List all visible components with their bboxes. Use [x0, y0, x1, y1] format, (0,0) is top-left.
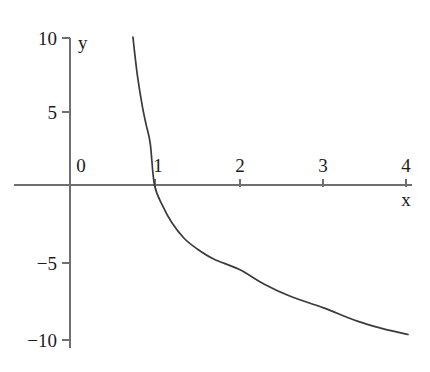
- x-tick-label-4: 4: [401, 155, 411, 176]
- y-tick-label-minus-10: −10: [27, 330, 57, 351]
- x-tick-label-2: 2: [235, 155, 245, 176]
- x-tick-label-0: 0: [76, 155, 86, 176]
- y-tick-label-10: 10: [38, 28, 57, 49]
- logarithmic-curve-chart: 10 5 −5 −10 0 1 2 3 4 y x: [0, 0, 430, 372]
- chart-container: 10 5 −5 −10 0 1 2 3 4 y x: [0, 0, 430, 372]
- y-tick-label-minus-5: −5: [37, 253, 57, 274]
- x-tick-label-1: 1: [153, 155, 163, 176]
- y-axis-label: y: [78, 32, 88, 53]
- y-tick-label-5: 5: [48, 102, 58, 123]
- x-axis-label: x: [401, 189, 411, 210]
- x-tick-label-3: 3: [318, 155, 328, 176]
